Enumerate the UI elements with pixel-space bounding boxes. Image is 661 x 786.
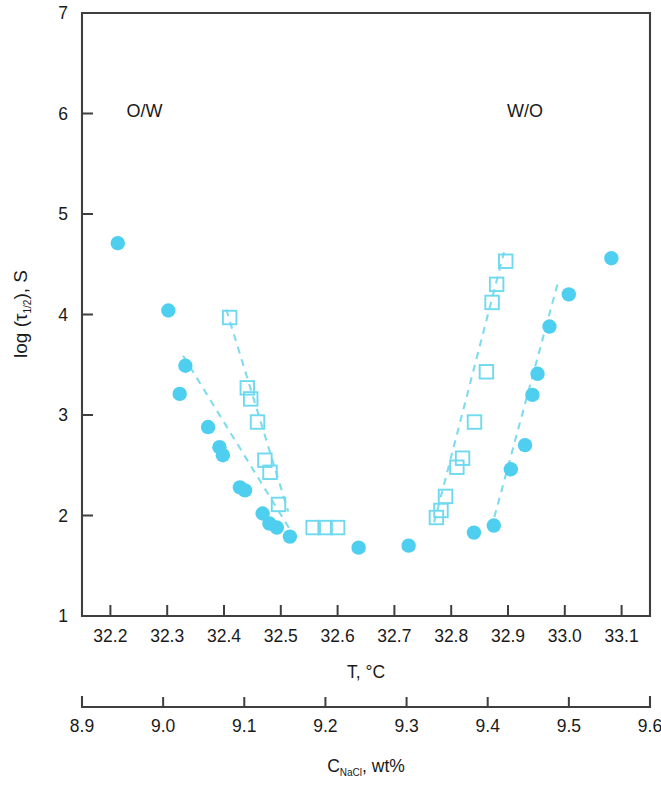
secondary-axis-path	[82, 697, 650, 707]
data-point-square	[468, 415, 482, 429]
data-point-square	[331, 521, 345, 535]
x-tick-label-32.7: 32.7	[377, 626, 411, 646]
y-tick-label-7: 7	[58, 3, 68, 23]
filled-circle-series	[111, 236, 619, 555]
x-axis-tick-labels: 32.232.332.432.532.632.732.832.933.033.1	[93, 626, 638, 646]
x-axis-ticks	[110, 605, 621, 616]
svg-text:CNaCl, wt%: CNaCl, wt%	[327, 756, 405, 778]
x-tick-label-32.5: 32.5	[264, 626, 298, 646]
data-point-square	[456, 451, 470, 465]
secondary-axis-title-main: C	[327, 756, 340, 776]
y-axis-title-suffix: ), S	[10, 270, 31, 300]
x2-tick-label-9.5: 9.5	[557, 716, 581, 736]
x-tick-label-33.1: 33.1	[605, 626, 639, 646]
data-point-circle	[172, 387, 186, 401]
data-point-circle	[351, 540, 365, 554]
chart-svg: 1234567 32.232.332.432.532.632.732.832.9…	[0, 0, 661, 786]
data-point-circle	[401, 538, 415, 552]
y-tick-label-6: 6	[58, 104, 68, 124]
x-tick-label-33.0: 33.0	[548, 626, 582, 646]
secondary-axis-frame	[82, 697, 650, 707]
data-point-circle	[604, 251, 618, 265]
x2-tick-label-9.1: 9.1	[232, 716, 256, 736]
svg-text:log (τ1/2), S: log (τ1/2), S	[10, 270, 33, 358]
secondary-axis-title-sub: NaCl	[340, 767, 362, 778]
x-tick-label-32.3: 32.3	[150, 626, 184, 646]
x2-tick-label-9.4: 9.4	[476, 716, 501, 736]
y-axis-title-prefix: log (	[10, 320, 31, 358]
figure-container: 1234567 32.232.332.432.532.632.732.832.9…	[0, 0, 661, 786]
data-point-circle	[542, 319, 556, 333]
data-point-circle	[530, 367, 544, 381]
x-tick-label-32.6: 32.6	[321, 626, 355, 646]
secondary-axis-ticks	[163, 697, 569, 707]
data-point-square	[450, 461, 464, 475]
x-tick-label-32.8: 32.8	[434, 626, 468, 646]
data-point-circle	[111, 236, 125, 250]
annotation-wo: W/O	[507, 101, 543, 121]
x-tick-label-32.2: 32.2	[93, 626, 127, 646]
x-axis-title: T, °C	[347, 662, 385, 682]
secondary-axis-tick-labels: 8.99.09.19.29.39.49.59.6	[70, 716, 661, 736]
secondary-axis-title-rest: , wt%	[362, 756, 405, 776]
data-point-circle	[467, 525, 481, 539]
data-point-circle	[518, 438, 532, 452]
annotation-ow: O/W	[126, 101, 162, 121]
x-tick-label-32.4: 32.4	[207, 626, 241, 646]
wo-circle-fit	[491, 282, 558, 529]
x-tick-label-32.9: 32.9	[491, 626, 525, 646]
secondary-axis-title: CNaCl, wt%	[327, 756, 405, 778]
data-point-circle	[270, 520, 284, 534]
ow-square-fit	[226, 309, 288, 511]
y-tick-label-3: 3	[58, 405, 68, 425]
data-point-circle	[201, 420, 215, 434]
y-axis-ticks	[82, 114, 93, 516]
data-point-circle	[216, 448, 230, 462]
data-point-circle	[504, 462, 518, 476]
x2-tick-label-8.9: 8.9	[70, 716, 94, 736]
data-point-circle	[161, 303, 175, 317]
x2-tick-label-9.2: 9.2	[313, 716, 337, 736]
x2-tick-label-9.0: 9.0	[151, 716, 176, 736]
data-point-circle	[283, 529, 297, 543]
y-tick-label-2: 2	[58, 506, 68, 526]
y-tick-label-5: 5	[58, 204, 68, 224]
y-tick-label-4: 4	[58, 305, 68, 325]
data-point-circle	[562, 287, 576, 301]
y-axis-title: log (τ1/2), S	[10, 270, 33, 358]
data-point-circle	[178, 359, 192, 373]
data-point-circle	[238, 483, 252, 497]
x2-tick-label-9.6: 9.6	[638, 716, 661, 736]
data-point-circle	[525, 388, 539, 402]
y-axis-tick-labels: 1234567	[58, 3, 68, 626]
x2-tick-label-9.3: 9.3	[394, 716, 418, 736]
data-point-square	[480, 365, 494, 379]
y-axis-title-sub: 1/2	[22, 299, 33, 313]
wo-square-fit	[434, 252, 504, 522]
fit-lines-group	[183, 252, 558, 539]
y-tick-label-1: 1	[58, 606, 68, 626]
data-point-circle	[487, 518, 501, 532]
